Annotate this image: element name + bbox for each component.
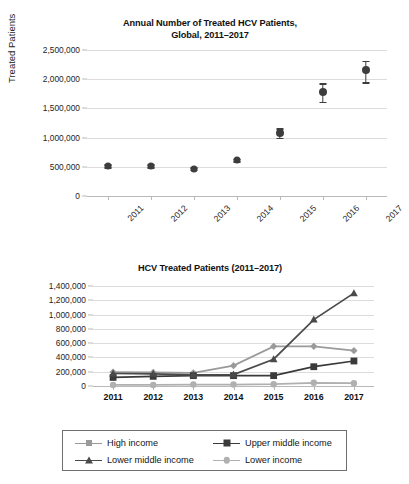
top-chart-y-tick-mark <box>82 79 87 80</box>
top-chart-data-point <box>148 162 155 169</box>
top-chart-y-tick-mark <box>82 196 87 197</box>
bottom-chart-x-tick-label: 2012 <box>143 392 163 402</box>
legend-label: Lower income <box>245 455 302 465</box>
top-chart-y-tick-mark <box>82 137 87 138</box>
top-chart-y-axis-label: Treated Patients <box>6 14 17 83</box>
bottom-chart-x-tick-label: 2013 <box>184 392 204 402</box>
bottom-chart-data-point <box>311 380 317 386</box>
top-chart-title-line1: Annual Number of Treated HCV Patients, <box>60 17 360 29</box>
legend-swatch-diamond-icon <box>75 438 102 449</box>
bottom-chart-plot-area: 0200,000400,000600,000800,0001,000,0001,… <box>93 286 374 386</box>
bottom-chart-data-point <box>110 382 116 388</box>
top-chart-y-tick-mark <box>82 108 87 109</box>
bottom-chart-data-point <box>310 363 317 370</box>
top-chart-data-point <box>105 162 112 169</box>
top-chart-x-tick-mark <box>108 196 109 200</box>
legend-swatch-marker <box>86 440 92 446</box>
bottom-chart-x-tick-label: 2014 <box>224 392 244 402</box>
top-chart-y-tick-label: 2,500,000 <box>43 45 80 55</box>
bottom-chart-data-point <box>270 381 276 387</box>
legend-swatch-square-icon <box>213 438 240 449</box>
legend-label: Upper middle income <box>245 438 332 448</box>
top-chart-data-point <box>362 66 370 74</box>
bottom-chart-data-point <box>270 343 277 350</box>
top-chart-y-tick-label: 1,000,000 <box>43 133 80 143</box>
top-chart-y-tick-label: 1,500,000 <box>43 103 80 113</box>
bottom-chart-data-point <box>310 343 317 350</box>
bottom-chart-data-point <box>350 289 358 296</box>
legend-item-lower-income[interactable]: Lower income <box>213 452 302 468</box>
bottom-chart-data-point <box>351 358 358 365</box>
legend-item-upper-middle-income[interactable]: Upper middle income <box>213 435 332 451</box>
top-chart-y-tick-label: 0 <box>75 191 80 201</box>
top-chart-data-point <box>319 88 327 96</box>
bottom-chart-y-tick-label: 800,000 <box>56 324 86 334</box>
bottom-chart-y-tick-label: 1,400,000 <box>49 281 86 291</box>
top-chart-x-tick-mark <box>280 196 281 200</box>
bottom-chart-y-tick-label: 400,000 <box>56 352 86 362</box>
bottom-chart-x-tick-mark <box>314 386 315 390</box>
bottom-chart-panel: HCV Treated Patients (2011–2017) 0200,00… <box>0 255 409 484</box>
legend-swatch-marker <box>223 457 230 464</box>
top-chart-panel: Annual Number of Treated HCV Patients, G… <box>0 0 409 248</box>
legend-item-lower-middle-income[interactable]: Lower middle income <box>75 452 194 468</box>
bottom-chart-data-point <box>190 381 196 387</box>
bottom-chart-y-tick-label: 1,200,000 <box>49 295 86 305</box>
top-chart-x-tick-label: 2016 <box>340 203 361 224</box>
top-chart-x-tick-mark <box>237 196 238 200</box>
top-chart-y-tick-label: 500,000 <box>50 162 80 172</box>
bottom-chart-data-point <box>351 380 357 386</box>
top-chart-error-bar-cap <box>362 61 369 62</box>
top-chart-data-point <box>234 157 241 164</box>
top-chart-y-tick-mark <box>82 166 87 167</box>
bottom-chart-y-tick-label: 1,000,000 <box>49 310 86 320</box>
bottom-chart-x-tick-mark <box>354 386 355 390</box>
bottom-chart-legend: High incomeUpper middle incomeLower midd… <box>62 430 347 471</box>
bottom-chart-data-point <box>230 362 237 369</box>
top-chart-gridline <box>87 167 387 168</box>
top-chart-x-tick-mark <box>323 196 324 200</box>
bottom-chart-data-point <box>150 382 156 388</box>
legend-swatch-marker <box>223 440 230 447</box>
legend-swatch-circle-icon <box>213 455 240 466</box>
bottom-chart-data-point <box>230 381 236 387</box>
bottom-chart-x-tick-label: 2017 <box>344 392 364 402</box>
bottom-chart-y-tick-label: 600,000 <box>56 338 86 348</box>
top-chart-x-tick-label: 2014 <box>255 203 276 224</box>
top-chart-gridline <box>87 108 387 109</box>
top-chart-error-bar-cap <box>319 102 326 103</box>
top-chart-y-tick-mark <box>82 50 87 51</box>
top-chart-x-tick-label: 2015 <box>297 203 318 224</box>
top-chart-gridline <box>87 79 387 80</box>
top-chart-data-point <box>191 165 198 172</box>
legend-item-high-income[interactable]: High income <box>75 435 158 451</box>
top-chart-plot-area: 0500,0001,000,0001,500,0002,000,0002,500… <box>87 50 387 196</box>
bottom-chart-x-tick-label: 2016 <box>304 392 324 402</box>
bottom-chart-title: HCV Treated Patients (2011–2017) <box>40 262 380 274</box>
top-chart-title-line2: Global, 2011–2017 <box>60 29 360 41</box>
bottom-chart-x-tick-label: 2011 <box>104 392 123 402</box>
top-chart-error-bar-cap <box>276 138 283 139</box>
top-chart-error-bar-cap <box>362 82 369 83</box>
top-chart-x-tick-mark <box>194 196 195 200</box>
top-chart-gridline <box>87 50 387 51</box>
top-chart-data-point <box>276 129 284 137</box>
bottom-chart-y-tick-label: 0 <box>81 381 86 391</box>
bottom-chart-x-tick-label: 2015 <box>264 392 284 402</box>
top-chart-title: Annual Number of Treated HCV Patients, G… <box>60 17 360 41</box>
top-chart-error-bar-cap <box>319 83 326 84</box>
bottom-chart-data-point <box>270 372 277 379</box>
bottom-chart-y-tick-label: 200,000 <box>56 367 86 377</box>
top-chart-x-tick-label: 2011 <box>126 203 146 223</box>
legend-swatch-marker <box>85 457 93 464</box>
legend-swatch-triangle-icon <box>75 455 102 466</box>
bottom-chart-data-point <box>350 347 357 354</box>
bottom-chart-data-point <box>310 316 318 323</box>
top-chart-gridline <box>87 138 387 139</box>
top-chart-x-tick-label: 2017 <box>383 203 404 224</box>
top-chart-x-tick-label: 2012 <box>169 203 190 224</box>
top-chart-x-tick-mark <box>366 196 367 200</box>
legend-label: High income <box>107 438 158 448</box>
bottom-chart-series-layer <box>93 286 374 386</box>
top-chart-y-tick-label: 2,000,000 <box>43 74 80 84</box>
